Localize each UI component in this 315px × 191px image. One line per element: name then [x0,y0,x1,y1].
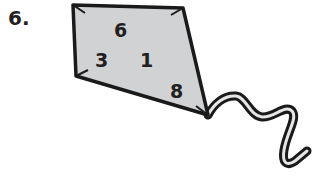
kite-number-8: 8 [170,80,183,102]
kite-number-1: 1 [140,49,153,71]
kite-number-6: 6 [114,19,127,41]
kite-number-3: 3 [95,49,108,71]
kite-tail [208,96,307,164]
kite-illustration: 6 3 1 8 [0,0,315,191]
